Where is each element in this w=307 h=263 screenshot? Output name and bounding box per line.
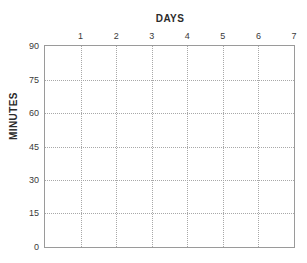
y-tick-label: 0	[34, 242, 39, 252]
y-tick-label: 90	[29, 41, 39, 51]
y-tick-label: 75	[29, 75, 39, 85]
x-tick-label: 1	[78, 31, 83, 41]
y-axis-title: MINUTES	[8, 71, 20, 161]
plot-area: 0 15 30 45 60 75 90 1 2 3 4 5 6 7	[44, 45, 295, 248]
x-axis-title: DAYS	[44, 13, 296, 25]
chart-container: DAYS MINUTES 0 15 30 45 60 75 90 1 2 3	[0, 0, 307, 263]
x-tick-labels: 1 2 3 4 5 6 7	[45, 46, 294, 247]
x-tick-label: 5	[220, 31, 225, 41]
x-tick-label: 7	[291, 31, 296, 41]
x-tick-label: 4	[185, 31, 190, 41]
x-tick-label: 3	[149, 31, 154, 41]
y-tick-label: 60	[29, 108, 39, 118]
y-tick-label: 15	[29, 208, 39, 218]
x-tick-label: 6	[256, 31, 261, 41]
y-tick-label: 30	[29, 175, 39, 185]
y-tick-label: 45	[29, 142, 39, 152]
x-tick-label: 2	[114, 31, 119, 41]
